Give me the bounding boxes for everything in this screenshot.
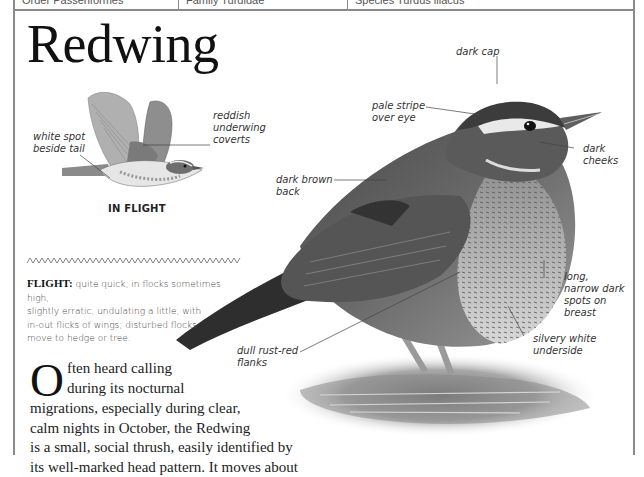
label-dark-cheeks: dark cheeks: [583, 143, 618, 167]
in-flight-caption: IN FLIGHT: [108, 203, 166, 214]
label-silvery-underside: silvery white underside: [533, 333, 596, 357]
label-white-spot: white spot beside tail: [33, 131, 85, 155]
species-description: O ften heard calling during its nocturna…: [30, 359, 360, 477]
label-dark-brown-back: dark brown back: [276, 174, 333, 198]
flight-pattern-zigzag: [27, 258, 240, 263]
drop-cap: O: [30, 361, 64, 399]
label-dark-cap: dark cap: [456, 46, 500, 58]
flight-heading: FLIGHT:: [27, 277, 73, 289]
flight-description: FLIGHT: quite quick; in flocks sometimes…: [27, 277, 242, 346]
label-breast-spots: long, narrow dark spots on breast: [564, 271, 625, 319]
label-pale-stripe: pale stripe over eye: [372, 100, 425, 124]
label-underwing-coverts: reddish underwing coverts: [213, 110, 266, 146]
